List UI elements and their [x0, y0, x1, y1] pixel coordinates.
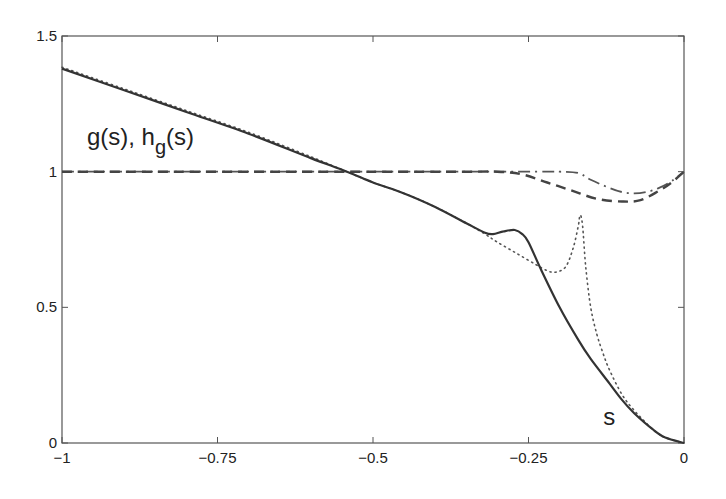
x-tick-label: −1: [53, 449, 70, 466]
x-tick-label: −0.5: [358, 449, 388, 466]
axis-ticks: [62, 36, 684, 443]
data-series: [62, 67, 684, 443]
series-solid-line: [62, 69, 684, 443]
series-dashed-line: [62, 171, 684, 201]
x-tick-label: −0.25: [510, 449, 548, 466]
y-tick-label: 1: [49, 163, 57, 180]
line-chart: −1−0.75−0.5−0.25000.511.5 g(s), hg(s)s: [0, 0, 726, 499]
y-tick-label: 0.5: [36, 298, 57, 315]
y-tick-label: 1.5: [36, 27, 57, 44]
series-dotted-line: [62, 67, 684, 443]
curve-label-g-hg: g(s), hg(s): [87, 123, 194, 158]
x-tick-label: 0: [680, 449, 688, 466]
annotations: g(s), hg(s)s: [87, 123, 615, 431]
curve-label-s: s: [603, 403, 615, 430]
y-tick-label: 0: [49, 434, 57, 451]
x-tick-label: −0.75: [199, 449, 237, 466]
plot-frame: [62, 36, 684, 443]
